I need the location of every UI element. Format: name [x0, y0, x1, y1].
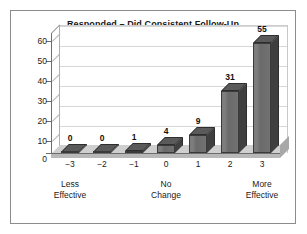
xtick-label-two: 2	[228, 159, 233, 169]
bar-face	[61, 151, 79, 153]
bar-side	[239, 83, 247, 153]
y-axis-tick-labels: 60 50 40 30 20 10 0	[17, 33, 47, 153]
group-label-line2: Change	[151, 190, 181, 201]
chart-figure: Responded – Did Consistent Follow-Up	[10, 10, 296, 224]
bar-value-label: 1	[132, 132, 137, 142]
xtick-label-minus2: −2	[97, 159, 107, 169]
bar-value-label: 4	[164, 126, 169, 136]
bar-side	[271, 35, 279, 153]
plot-area: 60 50 40 30 20 10 0 0 0 1	[51, 33, 288, 153]
xtick-label-zero: 0	[164, 159, 169, 169]
x-axis-tick-labels: −3 −2 −1 0 1 2 3	[51, 159, 288, 171]
gridline-60	[60, 26, 287, 27]
group-label-line1: More	[246, 179, 278, 190]
ytick-label-60: 60	[17, 36, 47, 46]
bar-face	[93, 151, 111, 153]
xtick-label-three: 3	[260, 159, 265, 169]
xtick-label-minus3: −3	[65, 159, 75, 169]
bar-face	[157, 145, 175, 153]
xtick-label-minus1: −1	[129, 159, 139, 169]
group-label-less-effective: Less Effective	[54, 179, 86, 201]
bar-three[interactable]: 55	[253, 43, 271, 153]
ytick-label-50: 50	[17, 56, 47, 66]
group-label-line1: Less	[54, 179, 86, 190]
ytick-label-30: 30	[17, 96, 47, 106]
bar-minus3[interactable]: 0	[61, 152, 79, 153]
bar-zero[interactable]: 4	[157, 145, 175, 153]
bar-minus1[interactable]: 1	[125, 151, 143, 153]
x-axis-group-labels: Less Effective No Change More Effective	[51, 179, 288, 213]
bar-value-label: 9	[196, 116, 201, 126]
bar-two[interactable]: 31	[221, 91, 239, 153]
bar-minus2[interactable]: 0	[93, 152, 111, 153]
group-label-line2: Effective	[54, 190, 86, 201]
bar-face	[221, 91, 239, 153]
bar-one[interactable]: 9	[189, 135, 207, 153]
bar-face	[253, 43, 271, 153]
group-label-no-change: No Change	[151, 179, 181, 201]
plot-floor-front	[51, 153, 280, 158]
y-axis-line	[51, 33, 52, 154]
ytick-label-10: 10	[17, 136, 47, 146]
bar-value-label: 0	[68, 133, 73, 143]
bar-value-label: 31	[225, 72, 234, 82]
bar-face	[189, 135, 207, 153]
bar-face	[125, 151, 143, 153]
group-label-more-effective: More Effective	[246, 179, 278, 201]
group-label-line2: Effective	[246, 190, 278, 201]
ytick-label-0: 0	[17, 154, 47, 164]
bar-value-label: 55	[257, 24, 266, 34]
xtick-label-one: 1	[196, 159, 201, 169]
ytick-label-20: 20	[17, 116, 47, 126]
bar-value-label: 0	[100, 133, 105, 143]
group-label-line1: No	[151, 179, 181, 190]
ytick-label-40: 40	[17, 76, 47, 86]
